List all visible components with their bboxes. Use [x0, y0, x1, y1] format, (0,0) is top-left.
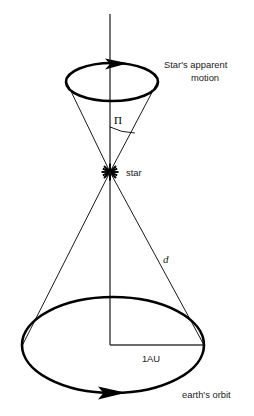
diagram-canvas: Star's apparent motion Π star d 1AU eart…	[0, 0, 254, 416]
baseline-label: 1AU	[142, 353, 160, 364]
earth-orbit-label: earth's orbit	[182, 389, 231, 400]
distance-label: d	[163, 253, 169, 265]
parallax-diagram: Star's apparent motion Π star d 1AU eart…	[0, 0, 254, 416]
parallax-angle-label: Π	[114, 114, 122, 126]
apparent-motion-label-line2: motion	[191, 72, 219, 83]
apparent-motion-label-line1: Star's apparent	[164, 59, 228, 70]
star-label: star	[126, 167, 142, 178]
